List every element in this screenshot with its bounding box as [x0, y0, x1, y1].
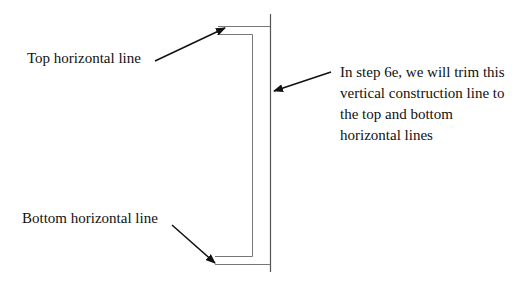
inner-profile-line [215, 35, 253, 257]
diagram-canvas: Top horizontal line Bottom horizontal li… [0, 0, 530, 283]
trim-note-line-2: vertical construction line to [340, 83, 505, 104]
trim-note-line-1: In step 6e, we will trim this [340, 62, 505, 83]
trim-note-line-4: horizontal lines [340, 125, 505, 146]
arrow-bottom-label [172, 225, 215, 263]
top-horizontal-line-label: Top horizontal line [27, 48, 141, 69]
arrow-top-label [155, 28, 225, 61]
trim-note-line-3: the top and bottom [340, 104, 505, 125]
trim-note: In step 6e, we will trim this vertical c… [340, 62, 505, 146]
arrow-note [274, 72, 331, 91]
bottom-horizontal-line-label: Bottom horizontal line [22, 208, 158, 229]
